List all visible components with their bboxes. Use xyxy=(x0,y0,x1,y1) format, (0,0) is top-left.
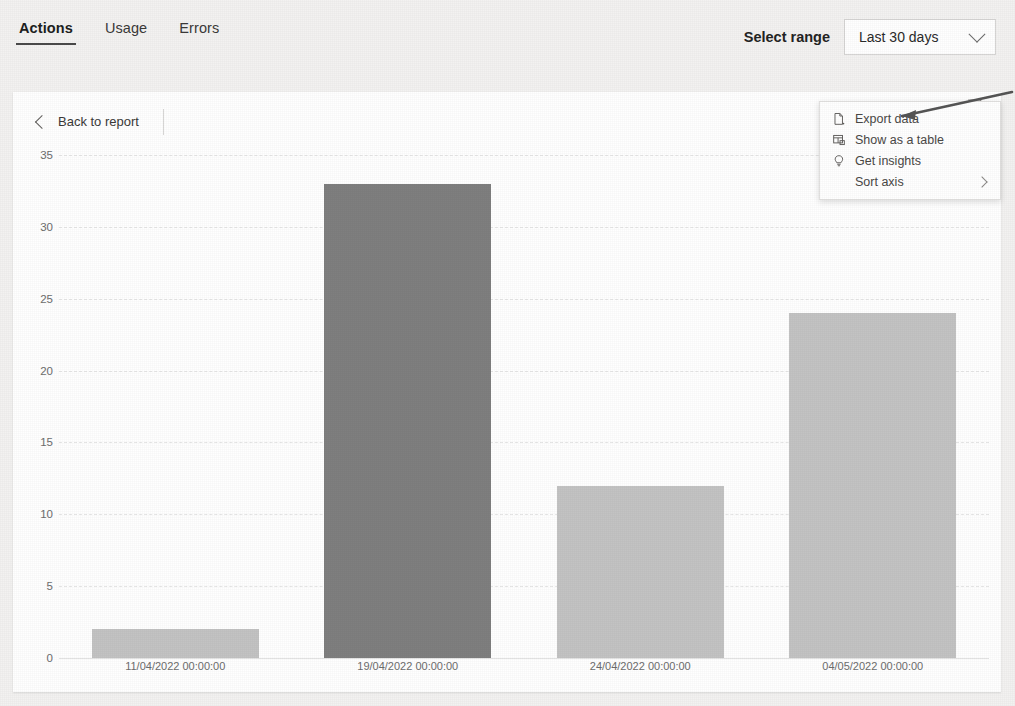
bar[interactable] xyxy=(324,184,491,658)
y-axis-tick-label: 35 xyxy=(40,149,53,161)
y-axis-tick-label: 30 xyxy=(40,221,53,233)
x-axis-tick-label: 24/04/2022 00:00:00 xyxy=(590,660,691,672)
lightbulb-icon xyxy=(831,153,846,168)
y-axis-tick-label: 15 xyxy=(40,436,53,448)
x-axis-tick-label: 04/05/2022 00:00:00 xyxy=(822,660,923,672)
table-icon xyxy=(831,132,846,147)
tab-usage[interactable]: Usage xyxy=(102,20,150,45)
y-axis-tick-label: 5 xyxy=(47,580,53,592)
y-axis-tick-label: 10 xyxy=(40,508,53,520)
menu-item-get-insights-label: Get insights xyxy=(855,154,990,168)
bar-chart: 05101520253035 11/04/2022 00:00:0019/04/… xyxy=(13,147,1001,692)
plot-area xyxy=(59,147,989,692)
back-to-report-button[interactable]: Back to report xyxy=(35,114,139,129)
range-dropdown-value: Last 30 days xyxy=(859,29,938,45)
y-axis-tick-label: 0 xyxy=(47,652,53,664)
tab-errors[interactable]: Errors xyxy=(176,20,222,45)
bar-series xyxy=(59,147,989,692)
bar[interactable] xyxy=(557,486,724,658)
select-range-label: Select range xyxy=(744,29,830,45)
top-bar: Actions Usage Errors Select range Last 3… xyxy=(0,0,1015,78)
chart-context-menu: Export data Show as a table Get insights… xyxy=(819,101,1001,200)
range-dropdown[interactable]: Last 30 days xyxy=(844,19,996,55)
back-to-report-label: Back to report xyxy=(58,114,139,129)
y-axis: 05101520253035 xyxy=(13,147,59,692)
chevron-left-icon xyxy=(35,114,49,128)
menu-item-export-data[interactable]: Export data xyxy=(820,108,1000,129)
tab-usage-label: Usage xyxy=(105,20,147,36)
export-file-icon xyxy=(831,111,846,126)
x-axis: 11/04/2022 00:00:0019/04/2022 00:00:0024… xyxy=(59,660,989,684)
menu-item-sort-axis[interactable]: Sort axis xyxy=(820,171,1000,192)
menu-item-export-data-label: Export data xyxy=(855,112,990,126)
tab-errors-label: Errors xyxy=(179,20,219,36)
tab-actions[interactable]: Actions xyxy=(16,20,76,45)
x-axis-tick-label: 19/04/2022 00:00:00 xyxy=(357,660,458,672)
x-axis-tick-label: 11/04/2022 00:00:00 xyxy=(125,660,225,672)
chevron-down-icon xyxy=(969,26,986,43)
menu-item-show-as-table-label: Show as a table xyxy=(855,133,990,147)
menu-item-sort-axis-label: Sort axis xyxy=(831,175,969,189)
y-axis-tick-label: 25 xyxy=(40,293,53,305)
tab-bar: Actions Usage Errors xyxy=(16,20,222,45)
y-axis-tick-label: 20 xyxy=(40,365,53,377)
header-divider xyxy=(163,109,164,135)
range-picker: Select range Last 30 days xyxy=(744,19,996,55)
bar[interactable] xyxy=(92,629,259,658)
menu-item-get-insights[interactable]: Get insights xyxy=(820,150,1000,171)
menu-item-show-as-table[interactable]: Show as a table xyxy=(820,129,1000,150)
bar[interactable] xyxy=(789,313,956,658)
chevron-right-icon xyxy=(976,176,987,187)
tab-actions-label: Actions xyxy=(19,20,73,36)
